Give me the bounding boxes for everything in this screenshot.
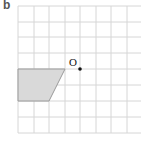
centre-label: O bbox=[69, 56, 77, 68]
grid-diagram: O bbox=[0, 0, 141, 141]
centre-point-o bbox=[78, 67, 82, 71]
